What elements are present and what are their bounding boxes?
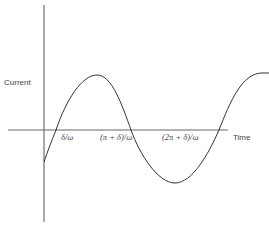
- current-waveform: [44, 73, 269, 183]
- x-axis-label: Time: [233, 133, 251, 142]
- tick-label-2pi-plus-delta: (2π + δ)/ω: [162, 132, 198, 142]
- tick-label-delta: δ/ω: [61, 132, 73, 142]
- y-axis-label: Current: [4, 78, 31, 87]
- current-vs-time-diagram: Current Time δ/ω (π + δ)/ω (2π + δ)/ω: [0, 0, 269, 230]
- tick-label-pi-plus-delta: (π + δ)/ω: [100, 132, 132, 142]
